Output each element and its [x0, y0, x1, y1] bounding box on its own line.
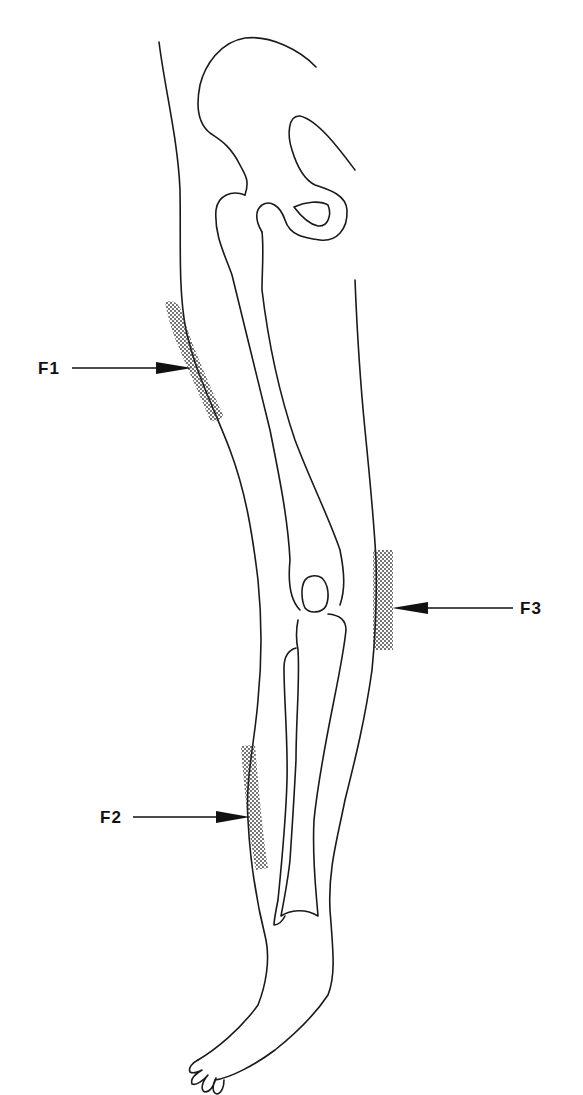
shaded-region-f2 [241, 745, 268, 870]
label-f1: F1 [38, 360, 60, 377]
shaded-region-f3 [373, 550, 393, 650]
leg-anatomy-figure [0, 0, 583, 1095]
arrow-f1 [72, 362, 192, 374]
pelvis-pubis [257, 116, 355, 240]
femur [216, 193, 344, 610]
leg-outline-medial [215, 280, 376, 1080]
label-f2: F2 [100, 809, 122, 826]
arrow-f3 [392, 602, 513, 614]
obturator-foramen [294, 202, 330, 226]
tibia [281, 614, 346, 916]
fibula [274, 648, 296, 925]
leg-outline-lateral [159, 42, 268, 1060]
shaded-region-f1 [165, 301, 223, 420]
label-f3: F3 [520, 600, 542, 617]
arrow-f2 [133, 811, 250, 823]
patella [302, 576, 328, 612]
foot-outline [189, 1060, 224, 1094]
